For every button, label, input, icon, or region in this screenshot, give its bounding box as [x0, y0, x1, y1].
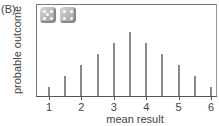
x-axis-line — [36, 96, 217, 97]
bar — [129, 32, 131, 96]
dice-icon — [60, 7, 76, 23]
bar — [178, 65, 180, 96]
x-tick — [81, 96, 82, 100]
x-axis-label: mean result — [90, 113, 180, 125]
x-tick — [49, 96, 50, 100]
bar — [113, 43, 115, 96]
x-tick — [114, 96, 115, 100]
bar — [210, 87, 212, 96]
bar — [145, 43, 147, 96]
x-tick-label: 6 — [204, 101, 218, 113]
x-tick-label: 4 — [139, 101, 153, 113]
dice-icon — [40, 7, 56, 23]
x-tick-label: 1 — [42, 101, 56, 113]
x-tick — [211, 96, 212, 100]
x-tick — [179, 96, 180, 100]
bar — [64, 76, 66, 96]
bar — [97, 54, 99, 96]
x-tick-label: 2 — [74, 101, 88, 113]
x-tick — [146, 96, 147, 100]
bar — [48, 87, 50, 96]
bar — [194, 76, 196, 96]
bar — [161, 54, 163, 96]
y-axis-label: probable outcome — [11, 3, 23, 97]
x-tick-label: 3 — [107, 101, 121, 113]
bar — [80, 65, 82, 96]
x-tick-label: 5 — [172, 101, 186, 113]
